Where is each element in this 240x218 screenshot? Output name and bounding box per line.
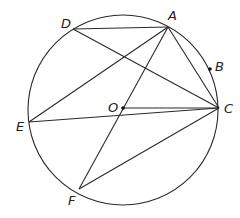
label-e: E [16,119,25,134]
label-f: F [68,193,76,208]
point-o-dot [121,106,125,110]
segment-EC [29,108,219,122]
label-c: C [224,101,234,116]
segment-AC [168,27,219,108]
label-d: D [61,16,71,31]
label-b: B [215,59,224,74]
segment-FC [79,108,219,189]
segment-DC [73,29,219,108]
segment-DA [73,27,168,29]
point-b-dot [208,67,212,71]
geometry-diagram: ABCDEFO [0,0,240,218]
label-o: O [108,100,118,115]
label-a: A [167,8,177,23]
